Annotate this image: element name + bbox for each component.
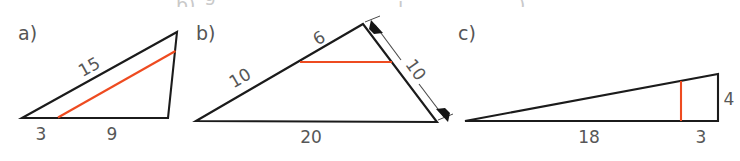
panel-a: a) 15 3 9 — [18, 22, 177, 144]
panel-a-label-base-left: 3 — [36, 124, 47, 144]
panel-a-tag: a) — [18, 22, 37, 44]
panel-b-label-base: 20 — [300, 127, 322, 147]
dimension-extension-top — [365, 16, 380, 22]
panel-b-label-lower-left-side: 10 — [226, 64, 255, 92]
panel-c-label-right-side: 4 — [724, 89, 735, 109]
figure-root: g b) j ) a) 15 3 9 b) 6 10 20 — [0, 0, 740, 161]
panel-c: c) 18 3 4 — [458, 22, 734, 147]
dimension-arrow-top — [369, 20, 383, 34]
panel-c-tag: c) — [458, 22, 476, 44]
panel-c-label-base-right: 3 — [696, 127, 707, 147]
panel-b-tag: b) — [196, 22, 215, 44]
figure-canvas: a) 15 3 9 b) 6 10 20 — [0, 0, 740, 161]
panel-a-label-base-right: 9 — [107, 124, 118, 144]
panel-b: b) 6 10 20 10 — [196, 16, 453, 147]
panel-c-label-base-left: 18 — [578, 127, 600, 147]
